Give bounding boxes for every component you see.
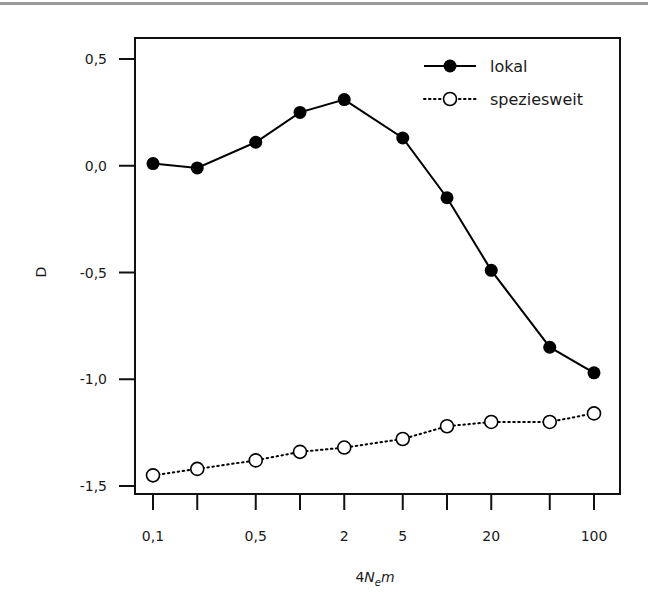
data-point xyxy=(588,366,601,379)
data-point xyxy=(588,407,601,420)
series-speziesweit xyxy=(147,407,601,482)
y-tick-label: -0,5 xyxy=(80,265,107,281)
data-point xyxy=(147,469,160,482)
legend-item-lokal: lokal xyxy=(424,57,527,76)
data-point xyxy=(485,415,498,428)
legend-label-speziesweit: speziesweit xyxy=(490,90,583,109)
data-point xyxy=(338,441,351,454)
data-point xyxy=(543,415,556,428)
data-point xyxy=(249,136,262,149)
data-point xyxy=(294,445,307,458)
data-point xyxy=(191,462,204,475)
data-point xyxy=(338,93,351,106)
x-tick-label: 0,1 xyxy=(142,528,164,544)
series-layer xyxy=(147,93,601,482)
legend-label-lokal: lokal xyxy=(490,57,527,76)
data-point xyxy=(294,106,307,119)
x-axis-title: 4Nem xyxy=(355,569,394,588)
data-point xyxy=(147,157,160,170)
series-lokal xyxy=(147,93,601,379)
data-point xyxy=(441,420,454,433)
x-tick-label: 20 xyxy=(482,528,500,544)
data-point xyxy=(441,191,454,204)
filled-circle-icon xyxy=(444,60,457,73)
series-line xyxy=(153,413,594,475)
y-tick-label: 0,0 xyxy=(85,158,107,174)
data-point xyxy=(543,341,556,354)
x-axis: 0,10,52520100 xyxy=(142,494,608,544)
y-tick-label: -1,5 xyxy=(80,478,107,494)
x-tick-label: 5 xyxy=(398,528,407,544)
data-point xyxy=(249,454,262,467)
x-tick-label: 100 xyxy=(581,528,608,544)
open-circle-icon xyxy=(444,93,457,106)
data-point xyxy=(396,433,409,446)
legend: lokal speziesweit xyxy=(424,57,583,109)
y-axis: 0,50,0-0,5-1,0-1,5 xyxy=(80,51,135,494)
y-tick-label: -1,0 xyxy=(80,371,107,387)
data-point xyxy=(485,264,498,277)
data-point xyxy=(396,131,409,144)
series-line xyxy=(153,100,594,373)
y-tick-label: 0,5 xyxy=(85,51,107,67)
legend-item-speziesweit: speziesweit xyxy=(424,90,583,109)
x-tick-label: 0,5 xyxy=(245,528,267,544)
line-chart: 0,50,0-0,5-1,0-1,5 0,10,52520100 lokal s… xyxy=(0,0,648,612)
x-tick-label: 2 xyxy=(340,528,349,544)
y-axis-title: D xyxy=(33,267,49,278)
data-point xyxy=(191,161,204,174)
